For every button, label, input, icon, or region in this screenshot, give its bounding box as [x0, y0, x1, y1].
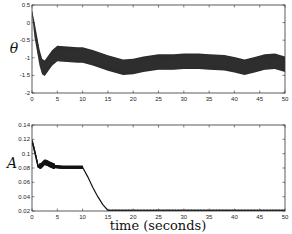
data-series	[32, 140, 285, 211]
x-tick-label: 30	[180, 96, 187, 102]
x-tick-label: 10	[79, 214, 86, 220]
x-tick-label: 15	[105, 96, 112, 102]
y-tick-label: 0	[27, 20, 31, 26]
figure: 05101520253035404550-2-1.5-1-0.500.5θ051…	[0, 0, 292, 234]
x-tick-label: 0	[30, 214, 34, 220]
x-tick-label: 40	[231, 96, 238, 102]
y-tick-label: 0.5	[22, 2, 31, 8]
x-tick-label: 35	[206, 96, 213, 102]
data-series	[32, 10, 285, 76]
x-tick-label: 25	[155, 96, 162, 102]
x-tick-label: 35	[206, 214, 213, 220]
y-tick-label: -0.5	[20, 37, 31, 43]
y-tick-label: 0.14	[18, 122, 30, 128]
x-tick-label: 45	[256, 96, 263, 102]
x-tick-label: 5	[56, 96, 60, 102]
x-axis: 05101520253035404550	[30, 125, 289, 220]
y-tick-label: 0.08	[18, 165, 30, 171]
y-tick-label: 0.02	[18, 208, 30, 214]
x-tick-label: 5	[56, 214, 60, 220]
y-tick-label: 0.04	[18, 194, 30, 200]
x-tick-label: 20	[130, 96, 137, 102]
y-tick-label: -1	[25, 55, 31, 61]
theta-plot: 05101520253035404550-2-1.5-1-0.500.5θ	[10, 2, 289, 102]
amplitude-plot: 051015202530354045500.020.040.060.080.10…	[5, 122, 289, 220]
y-axis-label: A	[5, 155, 17, 171]
y-tick-label: -1.5	[20, 72, 31, 78]
x-tick-label: 0	[30, 96, 34, 102]
x-tick-label: 50	[282, 214, 289, 220]
x-tick-label: 50	[282, 96, 289, 102]
x-axis-label: time (seconds)	[110, 218, 207, 233]
x-tick-label: 10	[79, 96, 86, 102]
x-tick-label: 45	[256, 214, 263, 220]
x-tick-label: 40	[231, 214, 238, 220]
y-tick-label: 0.12	[18, 136, 30, 142]
y-tick-label: 0.1	[22, 151, 31, 157]
y-axis-label: θ	[10, 40, 19, 56]
y-tick-label: -2	[25, 90, 31, 96]
y-tick-label: 0.06	[18, 179, 30, 185]
